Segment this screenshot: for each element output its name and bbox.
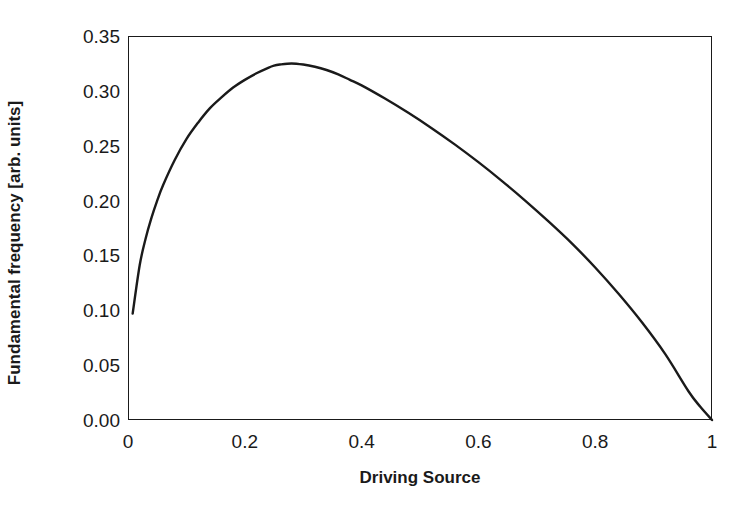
x-tick-label: 0.6 [448, 432, 508, 451]
y-tick-label: 0.35 [40, 27, 120, 46]
y-tick-label: 0.25 [40, 137, 120, 156]
y-tick-label: 0.00 [40, 411, 120, 430]
chart-figure: Fundamental frequency [arb. units] 0.000… [0, 0, 754, 525]
data-curve [128, 36, 712, 420]
x-tick-label: 0.8 [565, 432, 625, 451]
x-axis-title: Driving Source [128, 468, 712, 488]
x-tick-label: 0.4 [332, 432, 392, 451]
y-axis-title: Fundamental frequency [arb. units] [0, 51, 30, 435]
y-tick-label: 0.30 [40, 82, 120, 101]
y-tick-label: 0.05 [40, 356, 120, 375]
y-tick-label: 0.15 [40, 246, 120, 265]
x-tick-label: 1 [682, 432, 742, 451]
y-tick-label: 0.10 [40, 301, 120, 320]
x-axis-tick-labels: 00.20.40.60.81 [0, 432, 754, 462]
series-line-fundamental-frequency [133, 63, 712, 420]
y-tick-label: 0.20 [40, 192, 120, 211]
x-tick-label: 0.2 [215, 432, 275, 451]
x-tick-label: 0 [98, 432, 158, 451]
